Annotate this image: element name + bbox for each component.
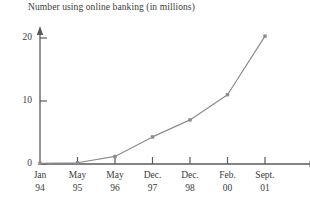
x-axis-tick-month: Dec. xyxy=(133,169,173,182)
x-axis-tick-label: Dec.98 xyxy=(170,169,210,195)
chart-data-markers xyxy=(38,34,266,165)
chart-tick-marks xyxy=(40,38,265,164)
y-axis-tick-label: 20 xyxy=(10,32,32,42)
x-axis-tick-month: Sept. xyxy=(245,169,285,182)
x-axis-tick-month: May xyxy=(95,169,135,182)
x-axis-tick-label: Jan94 xyxy=(20,169,60,195)
x-axis-tick-year: 00 xyxy=(208,182,248,195)
x-axis-tick-month: Feb. xyxy=(208,169,248,182)
x-axis-tick-year: 95 xyxy=(58,182,98,195)
x-axis-tick-label: May96 xyxy=(95,169,135,195)
chart-axes xyxy=(37,26,310,167)
x-axis-tick-year: 97 xyxy=(133,182,173,195)
x-axis-tick-year: 94 xyxy=(20,182,60,195)
x-axis-tick-month: May xyxy=(58,169,98,182)
x-axis-tick-month: Jan xyxy=(20,169,60,182)
x-axis-tick-label: Dec.97 xyxy=(133,169,173,195)
x-axis-tick-year: 98 xyxy=(170,182,210,195)
x-axis-tick-label: Feb.00 xyxy=(208,169,248,195)
x-axis-tick-label: May95 xyxy=(58,169,98,195)
y-axis-tick-label: 0 xyxy=(10,158,32,168)
x-axis-tick-year: 96 xyxy=(95,182,135,195)
chart-data-line xyxy=(40,36,265,163)
x-axis-tick-label: Sept.01 xyxy=(245,169,285,195)
x-axis-tick-month: Dec. xyxy=(170,169,210,182)
x-axis-tick-year: 01 xyxy=(245,182,285,195)
y-axis-tick-label: 10 xyxy=(10,95,32,105)
chart-container: Number using online banking (in millions… xyxy=(0,0,310,203)
